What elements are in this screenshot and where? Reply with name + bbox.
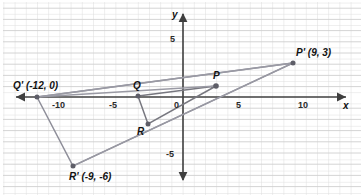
x-tick-5: 5 (236, 101, 241, 110)
point-R (146, 122, 151, 127)
point-P (213, 83, 219, 89)
dilation-figure: y x -10 -5 0 5 10 5 -5 P Q R P' (9, 3) Q… (0, 0, 361, 195)
x-tick-10: 10 (298, 101, 308, 110)
point-P-prime (291, 61, 296, 66)
y-tick-5: 5 (170, 35, 175, 44)
y-tick-neg5: -5 (166, 150, 174, 159)
point-R-prime (71, 164, 76, 169)
vertex-label-Q: Q (133, 81, 141, 91)
x-tick-origin: 0 (174, 101, 179, 110)
vertex-label-R-prime: R' (-9, -6) (69, 172, 111, 182)
coordinate-plane-svg (0, 0, 361, 195)
x-tick-neg5: -5 (109, 101, 117, 110)
point-Q-prime (35, 95, 40, 100)
y-axis-label: y (172, 10, 178, 20)
x-tick-neg10: -10 (52, 101, 65, 110)
vertex-label-Q-prime: Q' (-12, 0) (13, 81, 58, 91)
x-axis-label: x (343, 101, 349, 111)
vertex-label-P-prime: P' (9, 3) (296, 48, 331, 58)
vertex-label-P: P (213, 71, 220, 81)
point-Q (136, 94, 141, 99)
vertex-label-R: R (137, 127, 144, 137)
